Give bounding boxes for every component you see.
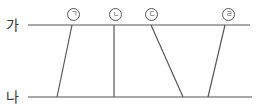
segment-digeut: [151, 25, 183, 97]
diagram-lines: [0, 0, 259, 110]
segment-label-nieun: ㄴ: [109, 8, 122, 21]
segment-rieul: [208, 25, 225, 97]
segment-giyeok: [57, 25, 72, 97]
line-label-ga: 가: [6, 18, 19, 32]
parallel-lines-diagram: 가 나 ㄱ ㄴ ㄷ ㄹ: [0, 0, 259, 110]
line-label-na: 나: [6, 90, 19, 104]
segment-label-giyeok: ㄱ: [67, 8, 80, 21]
segment-label-rieul: ㄹ: [222, 8, 235, 21]
segment-label-digeut: ㄷ: [145, 8, 158, 21]
